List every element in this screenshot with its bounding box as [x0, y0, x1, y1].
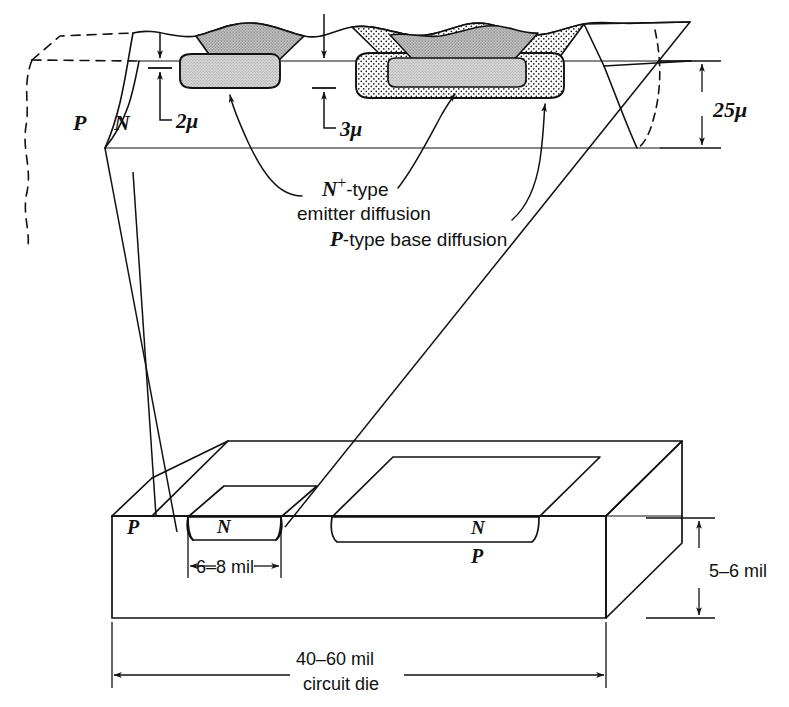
die-width-label: 40–60 mil — [296, 649, 374, 669]
die-thickness-label: 5–6 mil — [709, 561, 767, 581]
device-width-label: 6–8 mil — [196, 557, 254, 577]
callout-base-p: P — [329, 227, 343, 251]
die-label-p-left: P — [126, 516, 140, 538]
svg-text:P-type base diffusion: P-type base diffusion — [329, 227, 507, 251]
callout-emitter-type: -type — [346, 179, 388, 200]
callout-emitter-n: N — [321, 177, 338, 201]
callout-base-text: P-type base diffusion — [329, 227, 507, 251]
die-width-caption: circuit die — [303, 674, 379, 694]
callout-emitter-plus: + — [337, 174, 346, 191]
right-emitter-front-face — [388, 58, 526, 87]
wafer-thickness-label-25u: 25μ — [712, 97, 747, 122]
depth-2u-label: 2μ — [175, 109, 198, 133]
die-label-p-right: P — [470, 545, 484, 567]
callout-emitter-line2: emitter diffusion — [297, 203, 431, 224]
detail-label-n-epitaxial: N — [113, 110, 131, 135]
right-base-diffusion — [352, 23, 584, 98]
left-emitter-front-face — [180, 54, 280, 88]
ic-die-cross-section-figure: 2μ 3μ P N 25μ N+-type emitter diffusion … — [0, 0, 789, 707]
svg-text:N+-type: N+-type — [321, 174, 388, 201]
detail-label-p-substrate: P — [72, 110, 87, 135]
callout-base-type: -type base diffusion — [343, 229, 507, 250]
depth-3u-label: 3μ — [339, 117, 362, 141]
die-label-n-right: N — [470, 517, 486, 538]
diagram-canvas: 2μ 3μ P N 25μ N+-type emitter diffusion … — [0, 0, 789, 707]
die-label-n-left: N — [216, 516, 232, 537]
